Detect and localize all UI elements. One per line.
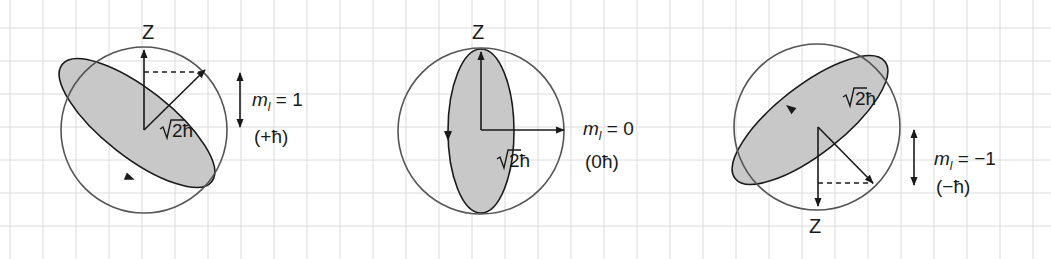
z-component-label: (+ħ) [254, 126, 288, 147]
z-component-label: (0ħ) [585, 151, 619, 172]
angular-momentum-diagram: Z2ħml = 1(+ħ)Z2ħml = 0(0ħ)Z2ħml = −1(−ħ) [0, 0, 1051, 259]
vector-magnitude-text: 2ħ [855, 88, 876, 109]
figures: Z2ħml = 1(+ħ)Z2ħml = 0(0ħ)Z2ħml = −1(−ħ) [41, 21, 996, 237]
precession-ellipse [714, 35, 906, 206]
precession-ellipse [41, 38, 233, 209]
figure-ml-plus-1: Z2ħml = 1(+ħ) [41, 21, 303, 213]
diagram-stage: Z2ħml = 1(+ħ)Z2ħml = 0(0ħ)Z2ħml = −1(−ħ) [0, 0, 1051, 259]
ml-quantum-number-label: ml = 0 [583, 118, 634, 143]
vector-magnitude-text: 2ħ [172, 120, 193, 141]
z-axis-label: Z [809, 215, 821, 237]
ml-quantum-number-label: ml = −1 [934, 148, 996, 173]
figure-ml-zero: Z2ħml = 0(0ħ) [398, 21, 634, 214]
z-component-label: (−ħ) [936, 176, 970, 197]
ml-quantum-number-label: ml = 1 [252, 89, 303, 114]
vector-magnitude-text: 2ħ [509, 150, 530, 171]
figure-ml-minus-1: Z2ħml = −1(−ħ) [714, 35, 996, 237]
z-axis-label: Z [472, 21, 484, 43]
z-axis-label: Z [142, 21, 154, 43]
rotation-direction-arrow-icon [124, 172, 136, 183]
